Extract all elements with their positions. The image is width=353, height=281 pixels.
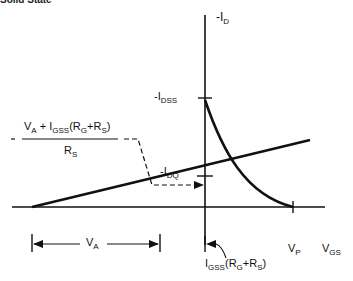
- offset-leader: [216, 244, 226, 258]
- va-label: VA: [86, 236, 99, 251]
- formula-numerator: VA + IGSS(RG+RS): [24, 120, 110, 135]
- va-arrow-left: [33, 240, 43, 248]
- formula-denominator: RS: [64, 144, 77, 159]
- offset-label: IGSS(RG+RS): [205, 257, 266, 272]
- x-axis-label: VGS: [322, 242, 341, 257]
- offset-arrowhead: [206, 240, 216, 248]
- vp-label: VP: [288, 242, 301, 257]
- idq-label: -IDQ: [160, 165, 179, 180]
- leader-arrowhead: [194, 181, 204, 189]
- idss-label: -IDSS: [154, 90, 177, 105]
- y-axis-label: -ID: [216, 10, 229, 26]
- jfet-bias-diagram: [0, 0, 353, 281]
- va-arrow-right: [149, 240, 159, 248]
